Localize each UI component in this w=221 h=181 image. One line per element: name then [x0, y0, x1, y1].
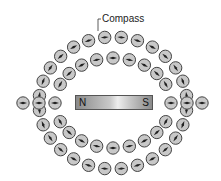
compass-icon — [151, 126, 163, 138]
compass-icon — [90, 140, 102, 152]
compass-icon — [165, 97, 177, 109]
compass-icon — [54, 50, 66, 62]
compass-icon — [17, 97, 29, 109]
compass-icon — [123, 140, 135, 152]
compass-icon — [107, 52, 119, 64]
compass-icon — [63, 67, 75, 79]
compass-icon — [177, 75, 189, 87]
compass-icon — [67, 41, 79, 53]
leader-line — [98, 19, 101, 31]
compass-icon — [138, 135, 150, 147]
compass-icon — [99, 162, 111, 174]
compass-icon — [75, 59, 87, 71]
compass-icon — [75, 135, 87, 147]
compass-icon — [159, 143, 171, 155]
compass-icon — [44, 62, 56, 74]
compass-icon — [107, 142, 119, 154]
compass-icon — [169, 62, 181, 74]
compass-icon — [151, 67, 163, 79]
compass-icon — [82, 159, 94, 171]
compass-icon — [196, 97, 208, 109]
compass-icon — [146, 153, 158, 165]
compass-icon — [37, 119, 49, 131]
south-pole-label: S — [142, 97, 149, 108]
compass-icon — [131, 159, 143, 171]
compass-icon — [33, 97, 45, 109]
compass-icon — [90, 54, 102, 66]
compass-icon — [159, 50, 171, 62]
compass-icon — [67, 153, 79, 165]
compass-icon — [138, 59, 150, 71]
compass-icon — [169, 132, 181, 144]
compass-icon — [177, 119, 189, 131]
compass-icon — [146, 41, 158, 53]
compass-icon — [37, 75, 49, 87]
compass-icon — [123, 54, 135, 66]
compass-icon — [54, 143, 66, 155]
compass-icon — [63, 126, 75, 138]
compass-icon — [115, 31, 127, 43]
magnetic-field-diagram: Compass N S — [0, 0, 221, 181]
compass-icon — [44, 132, 56, 144]
compass-icon — [54, 78, 66, 90]
compass-icon — [115, 162, 127, 174]
compass-icon — [99, 31, 111, 43]
compass-icon — [160, 115, 172, 127]
compass-icon — [82, 35, 94, 47]
compass-icon — [49, 97, 61, 109]
compass-field-svg — [0, 0, 221, 181]
compass-icon — [160, 78, 172, 90]
north-pole-label: N — [79, 97, 86, 108]
bar-magnet: N S — [75, 95, 153, 110]
compass-icon — [181, 97, 193, 109]
compass-label: Compass — [102, 13, 144, 24]
compass-icon — [54, 115, 66, 127]
compass-icon — [131, 35, 143, 47]
